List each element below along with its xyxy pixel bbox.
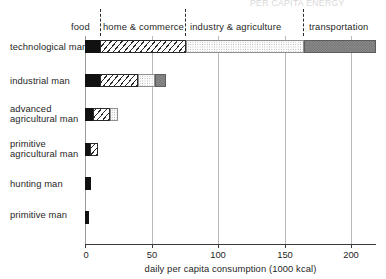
- energy-consumption-bar-chart: PER CAPITA ENERGY food home & commerce i…: [0, 0, 386, 279]
- row-label-primitive-agricultural-man-line2: agricultural man: [10, 149, 78, 160]
- row-label-advanced-agricultural-man-line2: agricultural man: [10, 114, 78, 125]
- segment-home-commerce: [100, 40, 186, 53]
- gridline-150: [285, 36, 286, 244]
- bar-technological-man: [85, 40, 376, 53]
- x-tick-0: [85, 244, 86, 248]
- x-tick-label-150: 150: [277, 249, 293, 260]
- category-divider-home-industry: [185, 9, 186, 36]
- segment-transportation: [304, 40, 376, 53]
- segment-home-commerce: [100, 74, 138, 87]
- x-axis-line: [85, 244, 376, 245]
- band-label-industry-agriculture: industry & agriculture: [190, 21, 281, 32]
- segment-home-commerce: [90, 143, 98, 156]
- segment-industry-agriculture: [110, 108, 118, 121]
- bar-hunting-man: [85, 177, 91, 190]
- x-tick-50: [152, 244, 153, 248]
- bar-advanced-agricultural-man: [85, 108, 118, 121]
- gridline-100: [218, 36, 219, 244]
- segment-food: [85, 40, 100, 53]
- x-tick-label-0: 0: [83, 249, 88, 260]
- segment-food: [85, 108, 93, 121]
- x-tick-150: [285, 244, 286, 248]
- category-divider-food-home: [100, 9, 101, 36]
- row-label-technological-man: technological man: [10, 42, 87, 53]
- segment-food: [85, 74, 100, 87]
- bar-industrial-man: [85, 74, 166, 87]
- band-label-transportation: transportation: [309, 21, 368, 32]
- x-tick-label-50: 50: [147, 249, 157, 260]
- band-label-home-commerce: home & commerce: [103, 21, 184, 32]
- bar-primitive-agricultural-man: [85, 143, 98, 156]
- segment-food: [85, 211, 89, 224]
- x-tick-label-200: 200: [343, 249, 359, 260]
- segment-industry-agriculture: [186, 40, 304, 53]
- cut-off-top-caption: PER CAPITA ENERGY: [250, 0, 382, 7]
- x-tick-100: [218, 244, 219, 248]
- row-label-industrial-man: industrial man: [10, 76, 70, 87]
- gridline-50: [152, 36, 153, 244]
- x-tick-200: [351, 244, 352, 248]
- segment-transportation: [155, 74, 166, 87]
- segment-industry-agriculture: [138, 74, 155, 87]
- x-axis-title: daily per capita consumption (1000 kcal): [85, 263, 376, 274]
- segment-home-commerce: [93, 108, 110, 121]
- bar-primitive-man: [85, 211, 89, 224]
- x-tick-label-100: 100: [210, 249, 226, 260]
- segment-food: [85, 177, 91, 190]
- row-label-hunting-man: hunting man: [10, 179, 63, 190]
- category-divider-industry-transport: [303, 9, 304, 36]
- gridline-200: [351, 36, 352, 244]
- row-label-primitive-man: primitive man: [10, 210, 67, 221]
- band-label-food: food: [71, 21, 90, 32]
